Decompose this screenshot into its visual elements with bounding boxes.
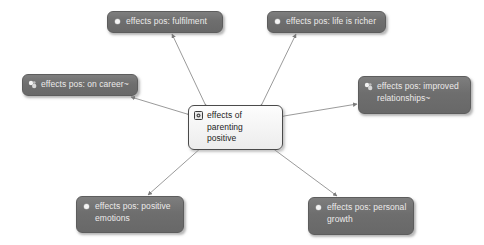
node-dot-icon [82, 202, 91, 211]
map-edge [131, 97, 187, 114]
map-node[interactable]: effects pos: on career~ [22, 74, 138, 96]
map-node[interactable]: effects pos: personal growth [308, 197, 414, 235]
node-dot-icon [113, 17, 122, 26]
map-node[interactable]: effects pos: improved relationships~ [358, 76, 471, 114]
map-node-label: effects pos: improved relationships~ [377, 81, 464, 104]
map-node[interactable]: effects pos: fulfilment [107, 11, 223, 33]
map-node-label: effects pos: positive emotions [95, 201, 177, 224]
node-aggregate-icon [28, 80, 37, 89]
map-node-label: effects pos: fulfilment [126, 16, 216, 28]
concept-map-canvas: effects pos: fulfilmenteffects pos: life… [0, 0, 484, 245]
map-edge [284, 104, 357, 116]
node-dot-icon [314, 203, 323, 212]
map-node-label: effects pos: personal growth [327, 202, 407, 225]
map-edge [172, 34, 205, 104]
node-case-icon [194, 111, 203, 120]
map-node-label: effects pos: life is richer [286, 16, 379, 28]
center-node[interactable]: effects of parenting positive [188, 105, 283, 150]
map-edge [262, 34, 296, 104]
map-node[interactable]: effects pos: positive emotions [76, 196, 184, 233]
node-aggregate-icon [364, 82, 373, 91]
center-node-label: effects of parenting positive [207, 110, 276, 145]
node-dot-icon [273, 17, 282, 26]
map-node-label: effects pos: on career~ [41, 79, 131, 91]
map-node[interactable]: effects pos: life is richer [267, 11, 386, 33]
